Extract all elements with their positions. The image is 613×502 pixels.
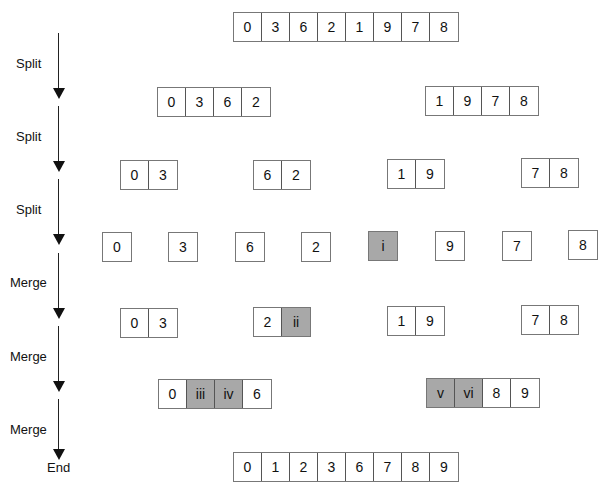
split-arrow-2-head-icon: [53, 161, 65, 172]
array-cell: 9: [416, 307, 444, 335]
array-cell: 0: [103, 233, 131, 261]
array-cell: 3: [262, 13, 290, 41]
array-single-8: 8: [568, 230, 598, 260]
array-merge1-c: 1 9: [387, 306, 445, 336]
array-single-3: 6: [235, 232, 265, 262]
stage-label-split-2: Split: [16, 129, 41, 144]
array-cell: 2: [290, 453, 318, 481]
merge-arrow-2-line: [58, 326, 59, 382]
array-merge2-right: v vi 8 9: [426, 378, 540, 408]
array-cell: 8: [430, 13, 458, 41]
array-sorted: 0 1 2 3 6 7 8 9: [233, 452, 459, 482]
array-cell: 8: [510, 87, 538, 115]
array-cell: 7: [522, 306, 550, 334]
split-arrow-3-head-icon: [53, 234, 65, 245]
array-cell: 0: [121, 309, 149, 337]
array-cell: 7: [522, 159, 550, 187]
array-cell: 1: [346, 13, 374, 41]
array-cell: 9: [454, 87, 482, 115]
array-cell: 6: [243, 380, 271, 408]
merge-arrow-2-head-icon: [53, 381, 65, 392]
array-single-6: 9: [435, 231, 465, 261]
array-merge1-b: 2 ii: [253, 307, 311, 337]
array-split2-a: 0 3: [120, 160, 178, 190]
array-cell: 3: [169, 233, 197, 261]
array-cell: 1: [426, 87, 454, 115]
array-split1-right: 1 9 7 8: [425, 86, 539, 116]
array-cell-blank: iv: [215, 380, 243, 408]
array-cell: 0: [159, 380, 187, 408]
array-cell: 3: [318, 453, 346, 481]
array-cell-blank: vi: [455, 379, 483, 407]
array-cell: 8: [483, 379, 511, 407]
array-cell: 3: [149, 161, 177, 189]
merge-arrow-1-line: [58, 253, 59, 309]
array-cell: 9: [374, 13, 402, 41]
array-cell: 3: [149, 309, 177, 337]
merge-arrow-3-line: [58, 399, 59, 451]
array-cell: 2: [282, 161, 310, 189]
array-cell: 7: [503, 232, 531, 260]
array-cell-blank: iii: [187, 380, 215, 408]
array-single-1: 0: [102, 232, 132, 262]
array-split2-d: 7 8: [521, 158, 579, 188]
array-cell: 3: [186, 88, 214, 116]
array-cell: 1: [388, 307, 416, 335]
split-arrow-3-line: [58, 179, 59, 235]
array-cell: 2: [242, 88, 270, 116]
array-cell: 7: [402, 13, 430, 41]
array-cell: 6: [290, 13, 318, 41]
array-cell: 6: [214, 88, 242, 116]
array-split2-b: 6 2: [253, 160, 311, 190]
array-merge1-d: 7 8: [521, 305, 579, 335]
array-single-5: i: [368, 231, 398, 261]
array-cell: 2: [302, 233, 330, 261]
array-split2-c: 1 9: [387, 159, 445, 189]
array-cell: 0: [234, 453, 262, 481]
array-cell-blank: ii: [282, 308, 310, 336]
array-cell-blank: i: [369, 232, 397, 260]
array-cell-blank: v: [427, 379, 455, 407]
array-cell: 0: [158, 88, 186, 116]
array-split1-left: 0 3 6 2: [157, 87, 271, 117]
array-cell: 6: [346, 453, 374, 481]
array-cell: 7: [374, 453, 402, 481]
array-single-2: 3: [168, 232, 198, 262]
merge-arrow-3-head-icon: [53, 449, 65, 460]
stage-label-merge-2: Merge: [10, 349, 47, 364]
array-merge1-a: 0 3: [120, 308, 178, 338]
stage-label-split-1: Split: [16, 56, 41, 71]
merge-arrow-1-head-icon: [53, 308, 65, 319]
split-arrow-2-line: [58, 106, 59, 162]
split-arrow-1-line: [58, 33, 59, 89]
array-cell: 8: [550, 306, 578, 334]
array-cell: 0: [234, 13, 262, 41]
split-arrow-1-head-icon: [53, 88, 65, 99]
array-cell: 7: [482, 87, 510, 115]
array-cell: 1: [388, 160, 416, 188]
array-cell: 9: [511, 379, 539, 407]
array-cell: 0: [121, 161, 149, 189]
stage-label-end: End: [47, 460, 70, 475]
array-cell: 8: [569, 231, 597, 259]
array-cell: 1: [262, 453, 290, 481]
array-cell: 9: [416, 160, 444, 188]
array-cell: 2: [254, 308, 282, 336]
stage-label-split-3: Split: [16, 202, 41, 217]
stage-label-merge-1: Merge: [10, 275, 47, 290]
array-single-7: 7: [502, 231, 532, 261]
array-cell: 8: [402, 453, 430, 481]
array-cell: 9: [436, 232, 464, 260]
array-cell: 8: [550, 159, 578, 187]
array-cell: 9: [430, 453, 458, 481]
array-cell: 6: [236, 233, 264, 261]
array-merge2-left: 0 iii iv 6: [158, 379, 272, 409]
array-single-4: 2: [301, 232, 331, 262]
stage-label-merge-3: Merge: [10, 422, 47, 437]
array-initial: 0 3 6 2 1 9 7 8: [233, 12, 459, 42]
array-cell: 6: [254, 161, 282, 189]
array-cell: 2: [318, 13, 346, 41]
